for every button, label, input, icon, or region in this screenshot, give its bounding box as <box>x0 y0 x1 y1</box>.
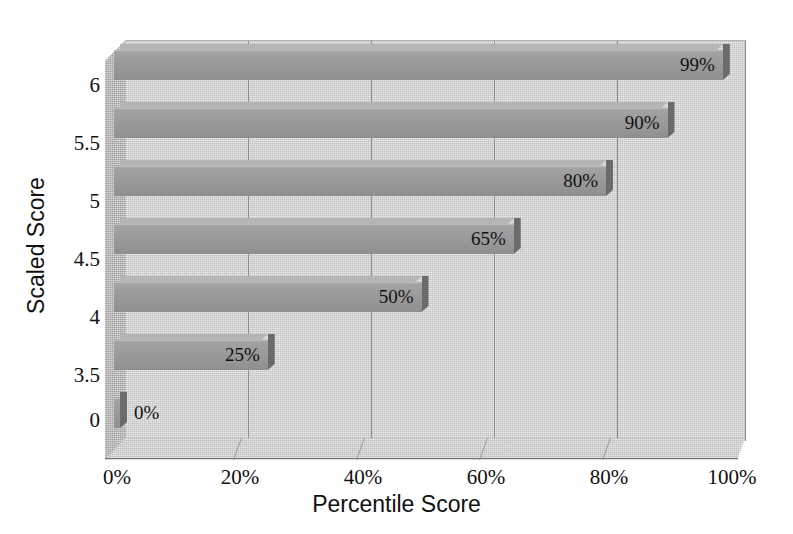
bar-3[interactable]: 65% <box>114 224 514 254</box>
x-tick-label-100: 100% <box>672 465 792 490</box>
bar-front-face <box>114 50 723 80</box>
bar-value-label: 50% <box>379 286 414 308</box>
bar-front-face <box>114 108 668 138</box>
bar-end-cap <box>120 392 127 428</box>
bar-value-label: 25% <box>225 344 260 366</box>
bar-5[interactable]: 90% <box>114 108 668 138</box>
x-tick-label-0: 0% <box>57 465 177 490</box>
bar-value-label: 80% <box>563 170 598 192</box>
bar-end-cap <box>514 218 521 254</box>
bar-2[interactable]: 50% <box>114 282 422 312</box>
bar-front-face <box>114 398 120 428</box>
bar-0[interactable]: 0% <box>114 398 120 428</box>
chart-3d-scene: 0% 25% 50% 65% 80% <box>0 0 793 534</box>
bar-6[interactable]: 99% <box>114 50 723 80</box>
bar-value-label: 0% <box>134 402 159 424</box>
bar-value-label: 90% <box>625 112 660 134</box>
bar-1[interactable]: 25% <box>114 340 268 370</box>
floor-texture <box>105 438 745 460</box>
bar-4[interactable]: 80% <box>114 166 606 196</box>
y-tick-label-6: 6 <box>40 73 100 98</box>
bar-front-face <box>114 166 606 196</box>
bar-end-cap <box>723 44 730 80</box>
bar-end-cap <box>268 334 275 370</box>
x-tick-label-80: 80% <box>549 465 669 490</box>
x-tick-label-20: 20% <box>180 465 300 490</box>
bar-value-label: 65% <box>471 228 506 250</box>
x-tick-label-40: 40% <box>303 465 423 490</box>
bar-end-cap <box>422 276 429 312</box>
plot-floor <box>105 438 745 460</box>
bar-end-cap <box>668 102 675 138</box>
x-tick-label-60: 60% <box>426 465 546 490</box>
y-tick-label-3.5: 3.5 <box>40 363 100 388</box>
y-axis-title: Scaled Score <box>23 126 50 366</box>
bar-front-face <box>114 224 514 254</box>
chart-figure: 0% 25% 50% 65% 80% <box>0 0 793 534</box>
floor-front-edge <box>105 458 738 459</box>
bar-value-label: 99% <box>680 54 715 76</box>
y-tick-label-0: 0 <box>40 408 100 433</box>
bar-end-cap <box>606 160 613 196</box>
x-axis-title: Percentile Score <box>0 491 793 518</box>
gridline-80 <box>617 41 618 441</box>
bar-front-face <box>114 282 422 312</box>
